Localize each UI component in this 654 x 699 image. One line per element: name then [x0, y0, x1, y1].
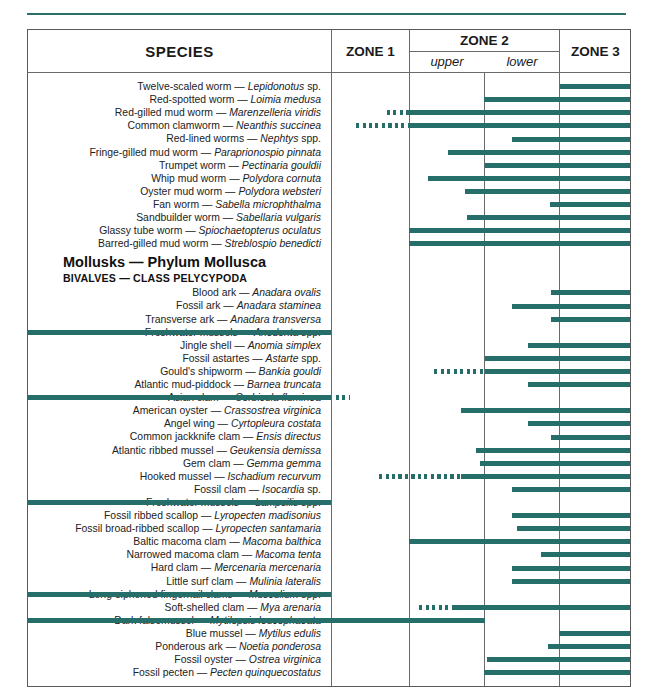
range-bar-dashed	[419, 605, 452, 610]
table-row[interactable]: Gould's shipworm — Bankia gouldi	[28, 365, 630, 378]
range-bar-dashed	[379, 474, 461, 479]
range-bar	[484, 97, 630, 102]
table-row[interactable]: Little surf clam — Mulinia lateralis	[28, 575, 630, 588]
table-row[interactable]: Trumpet worm — Pectinaria gouldii	[28, 159, 630, 172]
species-label: American oyster — Crassostrea virginica	[28, 404, 326, 417]
table-row[interactable]: Gem clam — Gemma gemma	[28, 457, 630, 470]
table-row[interactable]: Baltic macoma clam — Macoma balthica	[28, 535, 630, 548]
range-bar	[485, 163, 630, 168]
table-row[interactable]: Fossil clam — Isocardia sp.	[28, 483, 630, 496]
range-bar	[528, 343, 630, 348]
species-label: Glassy tube worm — Spiochaetopterus ocul…	[28, 224, 326, 237]
range-bar	[517, 526, 630, 531]
table-row[interactable]: American oyster — Crassostrea virginica	[28, 404, 630, 417]
range-bar	[528, 382, 630, 387]
range-bar	[484, 670, 630, 675]
table-row[interactable]: Hard clam — Mercenaria mercenaria	[28, 561, 630, 574]
species-label: Whip mud worm — Polydora cornuta	[28, 172, 326, 185]
species-label: Red-gilled mud worm — Marenzelleria viri…	[28, 106, 326, 119]
species-label: Hard clam — Mercenaria mercenaria	[28, 561, 326, 574]
species-label: Blood ark — Anadara ovalis	[28, 286, 326, 299]
range-bar	[485, 356, 630, 361]
table-row[interactable]: Atlantic ribbed mussel — Geukensia demis…	[28, 444, 630, 457]
species-label: Fringe-gilled mud worm — Paraprionospio …	[28, 146, 326, 159]
species-label: Fan worm — Sabella microphthalma	[28, 198, 326, 211]
range-bar	[487, 657, 630, 662]
species-label: Oyster mud worm — Polydora websteri	[28, 185, 326, 198]
range-bar	[461, 408, 630, 413]
species-label: Fossil broad-ribbed scallop — Lyropecten…	[28, 522, 326, 535]
table-row[interactable]: Ponderous ark — Noetia ponderosa	[28, 640, 630, 653]
species-label: Blue mussel — Mytilus edulis	[28, 627, 326, 640]
range-bar	[28, 500, 331, 505]
table-row[interactable]: Transverse ark — Anadara transversa	[28, 313, 630, 326]
table-row[interactable]: Red-gilled mud worm — Marenzelleria viri…	[28, 106, 630, 119]
species-label: Gould's shipworm — Bankia gouldi	[28, 365, 326, 378]
range-bar-dashed	[387, 110, 409, 115]
header-zone-2-lower: lower	[485, 51, 559, 72]
table-row[interactable]: Dark falsemussel — Mytilopsis leucophaea…	[28, 614, 630, 627]
species-label: Baltic macoma clam — Macoma balthica	[28, 535, 326, 548]
table-row[interactable]: Fossil ribbed scallop — Lyropecten madis…	[28, 509, 630, 522]
species-label: Barred-gilled mud worm — Streblospio ben…	[28, 237, 326, 250]
table-row[interactable]: Fossil oyster — Ostrea virginica	[28, 653, 630, 666]
table-row[interactable]: Fossil broad-ribbed scallop — Lyropecten…	[28, 522, 630, 535]
table-row[interactable]: Fringe-gilled mud worm — Paraprionospio …	[28, 146, 630, 159]
range-bar	[548, 644, 630, 649]
table-row[interactable]: Atlantic mud-piddock — Barnea truncata	[28, 378, 630, 391]
range-bar	[465, 189, 630, 194]
range-bar	[467, 215, 630, 220]
table-row[interactable]: Jingle shell — Anomia simplex	[28, 339, 630, 352]
range-bar	[461, 474, 630, 479]
table-row[interactable]: Fossil ark — Anadara staminea	[28, 299, 630, 312]
table-row[interactable]: Sandbuilder worm — Sabellaria vulgaris	[28, 211, 630, 224]
range-bar	[409, 539, 630, 544]
range-bar	[512, 566, 630, 571]
table-row[interactable]: Fossil astartes — Astarte spp.	[28, 352, 630, 365]
table-row[interactable]: Soft-shelled clam — Mya arenaria	[28, 601, 630, 614]
species-label: Hooked mussel — Ischadium recurvum	[28, 470, 326, 483]
table-row[interactable]: Twelve-scaled worm — Lepidonotus sp.	[28, 80, 630, 93]
range-bar	[551, 317, 630, 322]
range-bar	[559, 631, 630, 636]
range-bar	[28, 395, 331, 400]
range-bar	[448, 150, 630, 155]
table-row[interactable]: Long-siphoned fingernail clams — Musculi…	[28, 588, 630, 601]
species-label: Little surf clam — Mulinia lateralis	[28, 575, 326, 588]
table-row[interactable]: Freshwater mussels — Lampsilis spp.	[28, 496, 630, 509]
range-bar	[28, 618, 485, 623]
species-label: Red-lined worms — Nephtys spp.	[28, 132, 326, 145]
table-row[interactable]: Common jackknife clam — Ensis directus	[28, 430, 630, 443]
table-row[interactable]: Glassy tube worm — Spiochaetopterus ocul…	[28, 224, 630, 237]
species-label: Ponderous ark — Noetia ponderosa	[28, 640, 326, 653]
table-row[interactable]: Fossil pecten — Pecten quinquecostatus	[28, 666, 630, 679]
range-bar	[551, 435, 630, 440]
species-label: Atlantic mud-piddock — Barnea truncata	[28, 378, 326, 391]
table-row[interactable]: Barred-gilled mud worm — Streblospio ben…	[28, 237, 630, 250]
species-label: Twelve-scaled worm — Lepidonotus sp.	[28, 80, 326, 93]
table-row[interactable]: Blood ark — Anadara ovalis	[28, 286, 630, 299]
range-bar	[550, 202, 630, 207]
range-bar	[512, 513, 630, 518]
table-row[interactable]: Narrowed macoma clam — Macoma tenta	[28, 548, 630, 561]
table-row[interactable]: Oyster mud worm — Polydora websteri	[28, 185, 630, 198]
table-row[interactable]: Freshwater mussels — Anodonta spp.	[28, 326, 630, 339]
species-label: Gem clam — Gemma gemma	[28, 457, 326, 470]
table-row[interactable]: Asian clam — Corbicula fluminea	[28, 391, 630, 404]
range-bar	[560, 84, 630, 89]
table-row[interactable]: Red-spotted worm — Loimia medusa	[28, 93, 630, 106]
table-row[interactable]: Red-lined worms — Nephtys spp.	[28, 132, 630, 145]
table-row[interactable]: Whip mud worm — Polydora cornuta	[28, 172, 630, 185]
header-zone-2: ZONE 2	[410, 30, 559, 51]
table-row[interactable]: Hooked mussel — Ischadium recurvum	[28, 470, 630, 483]
table-row[interactable]: Fan worm — Sabella microphthalma	[28, 198, 630, 211]
table-row[interactable]: Common clamworm — Neanthis succinea	[28, 119, 630, 132]
range-bar	[28, 592, 331, 597]
table-row[interactable]: Blue mussel — Mytilus edulis	[28, 627, 630, 640]
species-label: Fossil ribbed scallop — Lyropecten madis…	[28, 509, 326, 522]
table-header: SPECIES ZONE 1 ZONE 2 upper lower ZONE 3	[28, 30, 630, 72]
table-row[interactable]: Angel wing — Cyrtopleura costata	[28, 417, 630, 430]
species-label: Jingle shell — Anomia simplex	[28, 339, 326, 352]
range-bar	[512, 137, 630, 142]
range-bar	[409, 123, 630, 128]
